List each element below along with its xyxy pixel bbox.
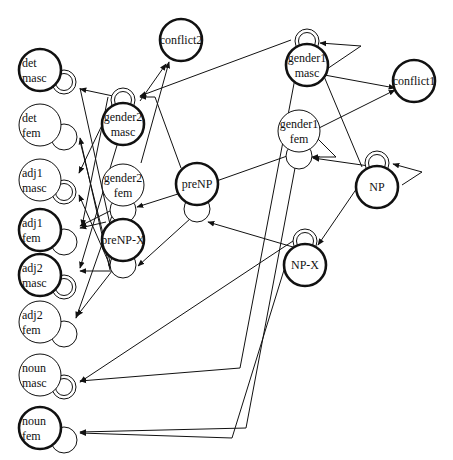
node-label-line2: masc — [22, 181, 47, 195]
edge-gender1_masc-to-conflict1 — [319, 74, 395, 88]
node-preNP[interactable]: preNP — [176, 163, 218, 222]
node-noun_masc[interactable]: nounmasc — [19, 354, 76, 399]
node-label-line1: gender1 — [280, 117, 319, 131]
node-label-line1: adj1 — [22, 166, 43, 180]
node-NP_X[interactable]: NP-X — [284, 229, 326, 286]
node-adj1_fem[interactable]: adj1fem — [19, 209, 77, 255]
edge-preNP_X-to-adj2_fem — [77, 271, 112, 316]
node-label-line1: gender2 — [104, 110, 143, 124]
node-label: preNP-X — [101, 233, 145, 247]
node-conflict1[interactable]: conflict1 — [393, 60, 436, 102]
node-adj2_masc[interactable]: adj2masc — [19, 254, 76, 299]
edge-NP_X-to-preNP — [208, 222, 293, 247]
edge-preNP-to-preNP_X — [138, 218, 191, 266]
node-label-line2: masc — [22, 276, 47, 290]
node-label: conflict1 — [393, 74, 436, 88]
node-label-line2: fem — [22, 429, 41, 443]
node-label-line1: adj1 — [22, 216, 43, 230]
node-label: preNP — [182, 177, 213, 191]
network-diagram: detmascdetfemadj1mascadj1femadj2mascadj2… — [0, 0, 453, 460]
node-noun_fem[interactable]: nounfem — [19, 407, 77, 453]
node-label-line1: adj2 — [22, 261, 43, 275]
node-label-line2: fem — [114, 186, 133, 200]
node-label-line1: det — [22, 56, 37, 70]
node-label-line2: masc — [111, 125, 136, 139]
edge-gender2_masc-to-det_masc — [80, 89, 113, 96]
node-label: NP — [369, 180, 385, 194]
edge-preNP-to-gender2_fem — [137, 193, 181, 207]
edge-gender2_fem-to-conflict2 — [141, 62, 169, 163]
node-label-line1: gender1 — [288, 51, 327, 65]
node-det_masc[interactable]: detmasc — [19, 49, 76, 94]
node-label-line1: noun — [22, 361, 46, 375]
node-gender2_masc[interactable]: gender2masc — [102, 88, 144, 145]
node-gender1_masc[interactable]: gender1masc — [286, 29, 328, 86]
node-adj1_masc[interactable]: adj1masc — [19, 159, 76, 204]
node-det_fem[interactable]: detfem — [19, 104, 77, 150]
node-adj2_fem[interactable]: adj2fem — [19, 301, 77, 347]
node-preNP_X[interactable]: preNP-X — [101, 219, 145, 278]
edge-preNP-to-gender2_masc — [140, 97, 181, 168]
node-label-line2: fem — [22, 323, 41, 337]
node-label-line2: masc — [22, 376, 47, 390]
node-gender2_fem[interactable]: gender2fem — [102, 164, 144, 223]
node-label-line1: gender2 — [104, 171, 143, 185]
node-label-line2: fem — [22, 126, 41, 140]
node-label-line2: fem — [290, 132, 309, 146]
node-gender1_fem[interactable]: gender1fem — [278, 110, 320, 169]
node-label-line1: adj2 — [22, 308, 43, 322]
edge-gender1_fem-to-conflict1 — [317, 90, 395, 129]
node-NP[interactable]: NP — [356, 151, 398, 208]
node-label-line1: noun — [22, 414, 46, 428]
node-label-line2: masc — [22, 71, 47, 85]
node-label-line2: fem — [22, 231, 41, 245]
node-label-line2: masc — [295, 66, 320, 80]
edge-gender2_masc-to-conflict2 — [140, 64, 166, 101]
node-label-line1: det — [22, 111, 37, 125]
node-label: conflict2 — [160, 33, 203, 47]
node-conflict2[interactable]: conflict2 — [160, 19, 203, 61]
node-label: NP-X — [291, 258, 319, 272]
